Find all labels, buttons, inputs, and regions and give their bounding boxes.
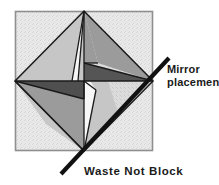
mirror-label-line1: Mirror: [167, 63, 219, 76]
mirror-placement-label: Mirror placement: [167, 63, 219, 88]
block-title-label: Waste Not Block: [84, 165, 183, 177]
mirror-label-line2: placement: [167, 76, 219, 89]
waste-not-block-diagram: [0, 0, 219, 185]
